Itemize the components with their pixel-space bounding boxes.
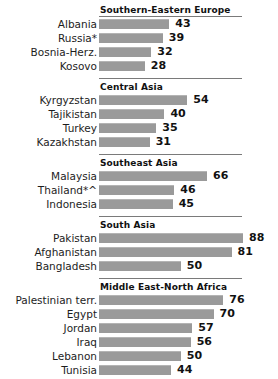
group-title: Central Asia bbox=[100, 82, 163, 92]
bar-row: Tajikistan40 bbox=[0, 107, 278, 121]
group-title: Southeast Asia bbox=[100, 158, 178, 168]
bar-value-label: 54 bbox=[193, 94, 208, 106]
bar-track: 43 bbox=[99, 19, 278, 29]
bar-row: Lebanon50 bbox=[0, 349, 278, 363]
bar bbox=[99, 171, 207, 181]
group-header: Central Asia bbox=[99, 79, 276, 93]
bar-category-label: Jordan bbox=[0, 322, 97, 334]
bar-row: Tunisia44 bbox=[0, 363, 278, 377]
bar-track: 50 bbox=[99, 351, 278, 361]
group-header: Middle East-North Africa bbox=[99, 279, 276, 293]
bar-category-label: Russia* bbox=[0, 32, 97, 44]
bar bbox=[99, 365, 171, 375]
bar-value-label: 35 bbox=[162, 122, 177, 134]
bar bbox=[99, 199, 173, 209]
group-header: Southern-Eastern Europe bbox=[99, 2, 276, 16]
bar bbox=[99, 33, 163, 43]
bar bbox=[99, 19, 169, 29]
bar-value-label: 70 bbox=[220, 308, 235, 320]
bar bbox=[99, 351, 181, 361]
bar-row: Turkey35 bbox=[0, 121, 278, 135]
bar-row: Afghanistan81 bbox=[0, 245, 278, 259]
bar-track: 32 bbox=[99, 47, 278, 57]
group-header: South Asia bbox=[99, 217, 276, 231]
bar-row: Russia*39 bbox=[0, 31, 278, 45]
bar-category-label: Thailand*^ bbox=[0, 184, 97, 196]
bar bbox=[99, 309, 214, 319]
group-title: South Asia bbox=[100, 220, 155, 230]
group-title: Middle East-North Africa bbox=[100, 282, 227, 292]
bar-track: 54 bbox=[99, 95, 278, 105]
bar-value-label: 81 bbox=[238, 246, 253, 258]
bar bbox=[99, 247, 232, 257]
bar-row: Indonesia45 bbox=[0, 197, 278, 211]
bar-track: 31 bbox=[99, 137, 278, 147]
bar-value-label: 46 bbox=[180, 184, 195, 196]
bar-track: 44 bbox=[99, 365, 278, 375]
bar-category-label: Afghanistan bbox=[0, 246, 97, 258]
bar bbox=[99, 123, 156, 133]
group-title: Southern-Eastern Europe bbox=[100, 5, 230, 15]
bar bbox=[99, 137, 150, 147]
bar-track: 40 bbox=[99, 109, 278, 119]
bar-row: Kosovo28 bbox=[0, 59, 278, 73]
bar-value-label: 76 bbox=[229, 294, 244, 306]
bar-category-label: Lebanon bbox=[0, 350, 97, 362]
bar-track: 45 bbox=[99, 199, 278, 209]
bar-category-label: Albania bbox=[0, 18, 97, 30]
chart-group: Central AsiaKyrgyzstan54Tajikistan40Turk… bbox=[0, 78, 278, 154]
bar-value-label: 39 bbox=[169, 32, 184, 44]
group-spacer bbox=[0, 377, 278, 379]
bar-row: Albania43 bbox=[0, 17, 278, 31]
bar-track: 81 bbox=[99, 247, 278, 257]
bar-category-label: Indonesia bbox=[0, 198, 97, 210]
bar-track: 56 bbox=[99, 337, 278, 347]
bar bbox=[99, 185, 174, 195]
bar-track: 76 bbox=[99, 295, 278, 305]
bar bbox=[99, 295, 223, 305]
bar-track: 35 bbox=[99, 123, 278, 133]
bar-row: Jordan57 bbox=[0, 321, 278, 335]
bar-category-label: Iraq bbox=[0, 336, 97, 348]
bar-track: 39 bbox=[99, 33, 278, 43]
bar-category-label: Kosovo bbox=[0, 60, 97, 72]
bar-value-label: 45 bbox=[179, 198, 194, 210]
bar-category-label: Kyrgyzstan bbox=[0, 94, 97, 106]
bar-category-label: Kazakhstan bbox=[0, 136, 97, 148]
chart-group: Southern-Eastern EuropeAlbania43Russia*3… bbox=[0, 2, 278, 78]
bar-category-label: Bosnia-Herz. bbox=[0, 46, 97, 58]
bar bbox=[99, 47, 151, 57]
chart-group: South AsiaPakistan88Afghanistan81Banglad… bbox=[0, 216, 278, 278]
bar-row: Egypt70 bbox=[0, 307, 278, 321]
bar bbox=[99, 337, 191, 347]
bar-category-label: Bangladesh bbox=[0, 260, 97, 272]
chart-group: Middle East-North AfricaPalestinian terr… bbox=[0, 278, 278, 379]
bar-value-label: 43 bbox=[175, 18, 190, 30]
bar-row: Bangladesh50 bbox=[0, 259, 278, 273]
bar-category-label: Tajikistan bbox=[0, 108, 97, 120]
bar-row: Malaysia66 bbox=[0, 169, 278, 183]
bar bbox=[99, 261, 181, 271]
bar bbox=[99, 323, 192, 333]
bar-row: Thailand*^46 bbox=[0, 183, 278, 197]
bar-value-label: 40 bbox=[170, 108, 185, 120]
bar bbox=[99, 233, 243, 243]
bar-row: Kazakhstan31 bbox=[0, 135, 278, 149]
bar-value-label: 50 bbox=[187, 260, 202, 272]
bar-category-label: Turkey bbox=[0, 122, 97, 134]
bar-value-label: 56 bbox=[197, 336, 212, 348]
bar-category-label: Pakistan bbox=[0, 232, 97, 244]
bar-row: Iraq56 bbox=[0, 335, 278, 349]
bar bbox=[99, 61, 145, 71]
bar-value-label: 66 bbox=[213, 170, 228, 182]
bar bbox=[99, 95, 187, 105]
bar-category-label: Malaysia bbox=[0, 170, 97, 182]
bar-row: Palestinian terr.76 bbox=[0, 293, 278, 307]
bar-track: 70 bbox=[99, 309, 278, 319]
bar-value-label: 88 bbox=[249, 232, 264, 244]
bar-row: Bosnia-Herz.32 bbox=[0, 45, 278, 59]
bar-track: 50 bbox=[99, 261, 278, 271]
chart-group: Southeast AsiaMalaysia66Thailand*^46Indo… bbox=[0, 154, 278, 216]
group-header: Southeast Asia bbox=[99, 155, 276, 169]
